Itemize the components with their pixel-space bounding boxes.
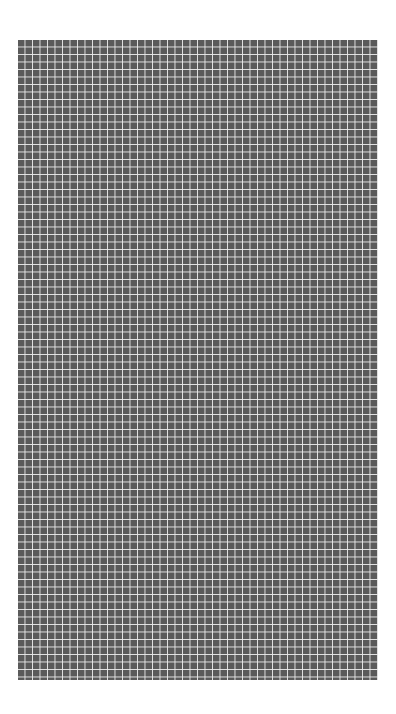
grid-pattern <box>18 40 378 680</box>
